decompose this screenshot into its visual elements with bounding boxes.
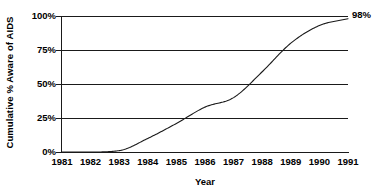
gridline xyxy=(62,84,348,85)
gridline xyxy=(62,50,348,51)
chart-container: Cumulative % Aware of AIDS 0%25%50%75%10… xyxy=(0,0,378,196)
x-axis-title: Year xyxy=(62,176,348,187)
end-value-annotation: 98% xyxy=(352,9,371,20)
y-axis-tick-label: 75% xyxy=(14,45,56,55)
y-axis-tick-mark xyxy=(56,16,62,17)
y-axis-tick-mark xyxy=(56,50,62,51)
y-axis-tick-mark xyxy=(56,84,62,85)
y-axis-tick-label: 100% xyxy=(14,11,56,21)
y-axis-tick-mark xyxy=(56,118,62,119)
x-axis-tick-label: 1991 xyxy=(331,156,365,168)
gridline xyxy=(62,16,348,17)
awareness-line xyxy=(62,19,348,152)
gridline xyxy=(62,152,348,153)
plot-area xyxy=(62,16,348,152)
y-axis-tick-label: 50% xyxy=(14,79,56,89)
y-axis-tick-mark xyxy=(56,152,62,153)
gridline xyxy=(62,118,348,119)
y-axis-tick-label: 25% xyxy=(14,113,56,123)
x-axis-tick-labels: 1981198219831984198519861987198819891990… xyxy=(62,156,362,172)
